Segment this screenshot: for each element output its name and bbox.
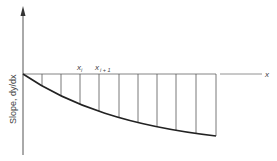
- y-axis-label: Slope, dy/dx: [8, 74, 18, 124]
- y-axis-arrow-icon: [21, 6, 26, 16]
- integration-strips: [42, 74, 216, 136]
- slope-diagram: Slope, dy/dx x xi xi + 1: [0, 0, 277, 161]
- x-axis-label: x: [264, 70, 270, 79]
- xi-label: xi: [76, 63, 83, 73]
- xi-plus-1-label: xi + 1: [94, 63, 111, 73]
- slope-curve: [23, 74, 216, 136]
